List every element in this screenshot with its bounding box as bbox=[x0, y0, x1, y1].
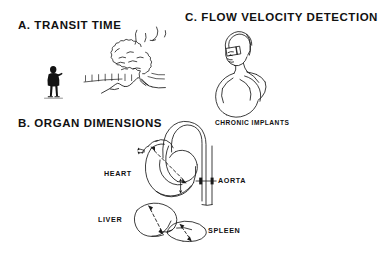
aorta-label: AORTA bbox=[218, 177, 246, 184]
ash-fall-streaks bbox=[84, 73, 165, 82]
spleen-label: SPLEEN bbox=[208, 227, 240, 234]
panel-c-heading: C. FLOW VELOCITY DETECTION bbox=[185, 12, 378, 24]
heart-vertical-arrow bbox=[179, 179, 182, 194]
heart-dimension-arrow bbox=[150, 147, 186, 183]
liver-dimension-arrow bbox=[148, 205, 164, 234]
smoke-plume bbox=[111, 27, 166, 77]
liver-label: LIVER bbox=[98, 216, 122, 223]
heart-label: HEART bbox=[104, 170, 132, 177]
panel-b-heading: B. ORGAN DIMENSIONS bbox=[18, 118, 162, 130]
volcano bbox=[102, 78, 166, 94]
panel-a-illustration bbox=[45, 27, 166, 98]
human-silhouette-observer bbox=[47, 66, 62, 97]
spleen-dimension-arrow bbox=[179, 224, 191, 242]
panel-c-illustration bbox=[216, 32, 266, 118]
chronic-implants-label: CHRONIC IMPLANTS bbox=[215, 120, 289, 127]
panel-a-heading: A. TRANSIT TIME bbox=[18, 20, 121, 32]
panel-b-illustration bbox=[134, 121, 216, 241]
